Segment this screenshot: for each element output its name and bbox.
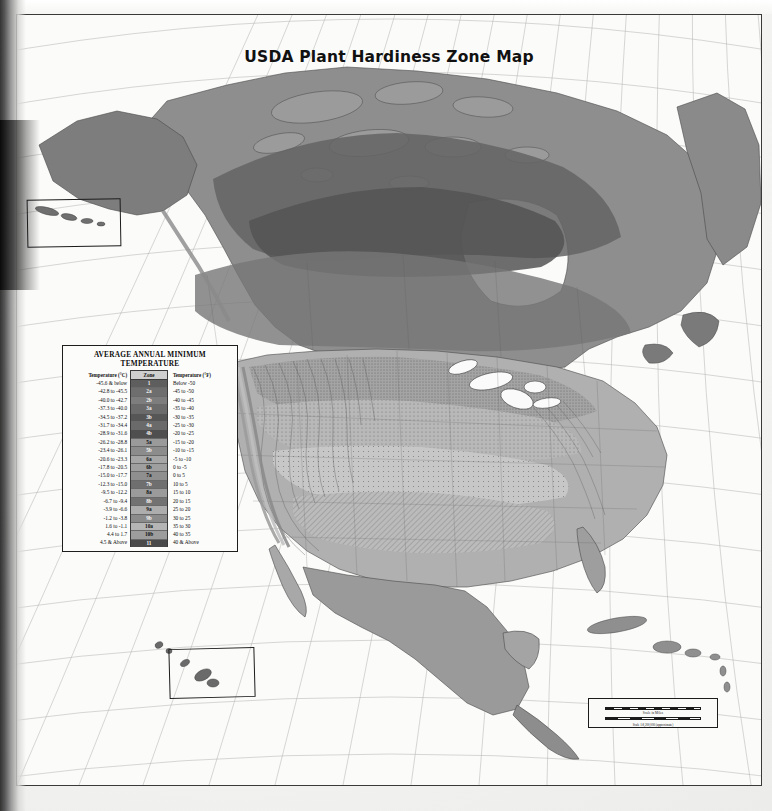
legend-row: -37.3 to -40.03a-35 to -40 [67,405,233,413]
legend-row: -20.6 to -23.36a-5 to -10 [67,455,233,463]
legend-cell-celsius: -3.9 to -6.6 [67,506,131,514]
legend-cell-fahrenheit: -15 to -20 [167,438,233,446]
legend-cell-celsius: -26.2 to -28.8 [67,438,131,446]
legend-header-row: Temperature (°C) Zone Temperature (°F) [67,371,233,380]
legend-swatch-zone: 11 [131,539,168,547]
legend-cell-fahrenheit: 40 to 35 [167,531,233,539]
legend-cell-celsius: -45.6 & below [67,380,131,388]
legend-row: -6.7 to -9.48b20 to 15 [67,497,233,505]
legend-cell-fahrenheit: -35 to -40 [167,405,233,413]
legend-swatch-zone: 5a [131,438,168,446]
legend-title-line2: TEMPERATURE [67,359,233,368]
legend-cell-celsius: -1.2 to -3.8 [67,514,131,522]
legend-swatch-zone: 10a [131,522,168,530]
legend-cell-fahrenheit: -25 to -30 [167,422,233,430]
legend-swatch-zone: 4a [131,422,168,430]
legend-cell-fahrenheit: 35 to 30 [167,522,233,530]
legend-row: 4.4 to 1.710b40 to 35 [67,531,233,539]
scale-bar-kilometers [605,717,701,720]
legend-row: -9.5 to -12.28a15 to 10 [67,489,233,497]
legend-cell-fahrenheit: 40 & Above [167,539,233,547]
legend-cell-celsius: 4.4 to 1.7 [67,531,131,539]
legend-cell-celsius: -6.7 to -9.4 [67,497,131,505]
legend-table: Temperature (°C) Zone Temperature (°F) -… [67,370,233,547]
legend-body: -45.6 & below1Below -50-42.8 to -45.52a-… [67,380,233,548]
legend-row: -17.8 to -20.56b0 to -5 [67,464,233,472]
page-title: USDA Plant Hardiness Zone Map [17,48,761,66]
legend-cell-celsius: -40.0 to -42.7 [67,396,131,404]
scale-ratio-label: Scale 1:8,200,000 (approximate) [589,723,717,727]
aleutian-islands-inset [27,198,122,248]
legend-swatch-zone: 5b [131,447,168,455]
legend-cell-celsius: -20.6 to -23.3 [67,455,131,463]
legend-swatch-zone: 4b [131,430,168,438]
legend-swatch-zone: 8b [131,497,168,505]
legend-cell-fahrenheit: -40 to -45 [167,396,233,404]
legend-swatch-zone: 3a [131,405,168,413]
legend-cell-celsius: -34.5 to -37.2 [67,413,131,421]
legend-row: -42.8 to -45.52a-45 to -50 [67,388,233,396]
legend-row: -15.0 to -17.77a0 to 5 [67,472,233,480]
legend-swatch-zone: 7b [131,480,168,488]
legend-cell-fahrenheit: -5 to -10 [167,455,233,463]
legend-swatch-zone: 9b [131,514,168,522]
legend-swatch-zone: 10b [131,531,168,539]
legend-swatch-zone: 6a [131,455,168,463]
legend-col-zone: Zone [131,371,168,380]
legend-cell-celsius: -12.3 to -15.0 [67,480,131,488]
legend-cell-fahrenheit: 20 to 15 [167,497,233,505]
legend-cell-fahrenheit: -45 to -50 [167,388,233,396]
legend-cell-fahrenheit: 30 to 25 [167,514,233,522]
legend-cell-celsius: -17.8 to -20.5 [67,464,131,472]
legend-row: 1.6 to -1.110a35 to 30 [67,522,233,530]
legend-swatch-zone: 6b [131,464,168,472]
legend-swatch-zone: 7a [131,472,168,480]
legend-row: -40.0 to -42.72b-40 to -45 [67,396,233,404]
legend-cell-celsius: -28.9 to -31.6 [67,430,131,438]
legend-cell-celsius: -42.8 to -45.5 [67,388,131,396]
legend-cell-fahrenheit: Below -50 [167,380,233,388]
legend-cell-fahrenheit: -20 to -25 [167,430,233,438]
scale-bar: Scale in Miles Scale 1:8,200,000 (approx… [588,698,718,728]
legend-cell-fahrenheit: 0 to -5 [167,464,233,472]
legend-swatch-zone: 9a [131,506,168,514]
legend-row: -23.4 to -26.15b-10 to -15 [67,447,233,455]
scale-bar-miles-label: Scale in Miles [589,711,717,715]
legend-row: -28.9 to -31.64b-20 to -25 [67,430,233,438]
map-screenshot: USDA Plant Hardiness Zone Map Scale in M… [0,0,772,811]
legend-cell-celsius: -23.4 to -26.1 [67,447,131,455]
legend-swatch-zone: 3b [131,413,168,421]
legend-cell-fahrenheit: 10 to 5 [167,480,233,488]
legend-cell-celsius: 1.6 to -1.1 [67,522,131,530]
legend-panel: AVERAGE ANNUAL MINIMUM TEMPERATURE Tempe… [62,345,238,552]
legend-swatch-zone: 2b [131,396,168,404]
legend-swatch-zone: 1 [131,380,168,388]
legend-col-fahrenheit: Temperature (°F) [167,371,233,380]
legend-title: AVERAGE ANNUAL MINIMUM TEMPERATURE [67,349,233,370]
legend-title-line1: AVERAGE ANNUAL MINIMUM [67,350,233,359]
legend-col-celsius: Temperature (°C) [67,371,131,380]
legend-cell-celsius: -37.3 to -40.0 [67,405,131,413]
legend-cell-celsius: -9.5 to -12.2 [67,489,131,497]
legend-row: -1.2 to -3.89b30 to 25 [67,514,233,522]
legend-cell-celsius: -31.7 to -34.4 [67,422,131,430]
legend-cell-celsius: -15.0 to -17.7 [67,472,131,480]
legend-row: -26.2 to -28.85a-15 to -20 [67,438,233,446]
legend-row: -31.7 to -34.44a-25 to -30 [67,422,233,430]
legend-row: -45.6 & below1Below -50 [67,380,233,388]
top-white-band [0,0,772,14]
legend-cell-celsius: 4.5 & Above [67,539,131,547]
legend-row: 4.5 & Above1140 & Above [67,539,233,547]
legend-cell-fahrenheit: 25 to 20 [167,506,233,514]
legend-swatch-zone: 2a [131,388,168,396]
legend-swatch-zone: 8a [131,489,168,497]
legend-cell-fahrenheit: 0 to 5 [167,472,233,480]
legend-cell-fahrenheit: -10 to -15 [167,447,233,455]
legend-cell-fahrenheit: 15 to 10 [167,489,233,497]
legend-cell-fahrenheit: -30 to -35 [167,413,233,421]
legend-row: -34.5 to -37.23b-30 to -35 [67,413,233,421]
hawaii-inset [168,647,255,699]
legend-row: -12.3 to -15.07b10 to 5 [67,480,233,488]
legend-row: -3.9 to -6.69a25 to 20 [67,506,233,514]
